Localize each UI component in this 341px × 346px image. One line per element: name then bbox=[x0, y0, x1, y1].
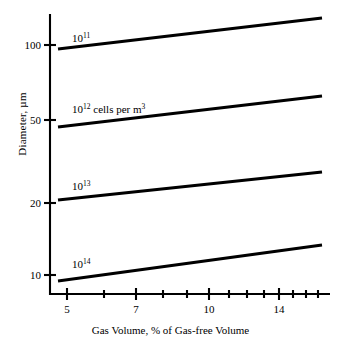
x-tick-label-10: 10 bbox=[204, 303, 216, 315]
x-tick-label-14: 14 bbox=[274, 303, 286, 315]
y-tick-label-10: 10 bbox=[30, 269, 42, 281]
y-tick-label-20: 20 bbox=[30, 197, 42, 209]
x-tick-label-5: 5 bbox=[64, 303, 70, 315]
chart-canvas: 100 50 20 10 5 7 10 14 bbox=[0, 0, 341, 346]
x-axis-title: Gas Volume, % of Gas-free Volume bbox=[0, 324, 341, 336]
x-tick-label-7: 7 bbox=[133, 303, 139, 315]
figure: 100 50 20 10 5 7 10 14 bbox=[0, 0, 341, 346]
y-axis-title: Diameter, µm bbox=[16, 64, 28, 184]
y-tick-label-100: 100 bbox=[25, 39, 42, 51]
y-tick-label-50: 50 bbox=[30, 114, 42, 126]
